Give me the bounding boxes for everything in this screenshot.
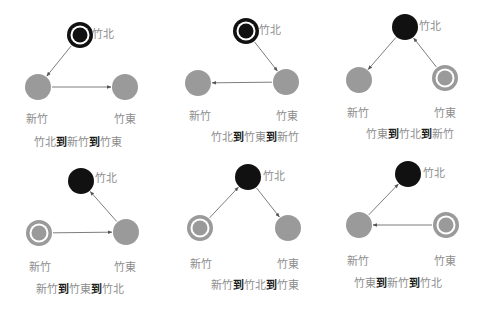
node-label-zhubei: 竹北 — [263, 169, 285, 183]
caption-connector: 到 — [56, 135, 67, 149]
caption-place: 竹東 — [100, 135, 122, 149]
caption-connector: 到 — [421, 127, 432, 141]
node-label-zhubei: 竹北 — [419, 19, 441, 33]
node-zhubei — [392, 14, 418, 40]
caption-place: 竹東 — [244, 130, 266, 144]
current-node-fill — [392, 14, 418, 40]
node-zhudong — [273, 69, 299, 95]
node-zhubei — [67, 22, 93, 48]
current-node-fill — [395, 161, 421, 187]
node-fill — [273, 69, 299, 95]
node-label-zhubei: 竹北 — [92, 27, 114, 41]
start-node-inner — [193, 221, 208, 236]
node-label-zhudong: 竹東 — [114, 112, 136, 126]
node-hsinchu — [25, 74, 51, 100]
edge-zhubei-to-hsinchu — [47, 46, 71, 76]
caption-place: 竹北 — [244, 278, 266, 292]
node-zhubei — [68, 168, 94, 194]
node-hsinchu — [26, 220, 52, 246]
current-node-fill — [235, 164, 261, 190]
node-zhubei — [233, 18, 259, 44]
node-zhudong — [433, 212, 459, 238]
node-label-hsinchu: 新竹 — [26, 112, 48, 126]
node-zhubei — [395, 161, 421, 187]
edge-hsinchu-to-zhudong — [53, 232, 112, 233]
caption-place: 竹東 — [277, 278, 299, 292]
node-label-hsinchu: 新竹 — [29, 260, 51, 274]
caption-connector: 到 — [388, 127, 399, 141]
node-zhudong — [113, 219, 139, 245]
node-fill — [185, 70, 211, 96]
node-label-zhubei: 竹北 — [95, 171, 117, 185]
caption-place: 竹東 — [354, 276, 376, 290]
caption-place: 竹北 — [420, 276, 442, 290]
node-label-hsinchu: 新竹 — [347, 106, 369, 120]
node-zhudong — [275, 215, 301, 241]
node-label-zhudong: 竹東 — [114, 260, 136, 274]
node-fill — [25, 74, 51, 100]
caption-place: 新竹 — [36, 282, 58, 296]
caption-connector: 到 — [233, 130, 244, 144]
node-label-zhudong: 竹東 — [277, 257, 299, 271]
node-label-hsinchu: 新竹 — [189, 109, 211, 123]
caption-place: 竹北 — [399, 127, 421, 141]
route-caption: 竹北到新竹到竹東 — [34, 135, 122, 149]
node-zhudong — [112, 74, 138, 100]
current-node-fill — [73, 28, 88, 43]
caption-connector: 到 — [58, 282, 69, 296]
node-fill — [346, 67, 372, 93]
node-zhubei — [235, 164, 261, 190]
caption-place: 新竹 — [211, 278, 233, 292]
node-fill — [113, 219, 139, 245]
caption-connector: 到 — [91, 282, 102, 296]
edge-zhudong-to-hsinchu — [212, 82, 272, 83]
node-label-zhubei: 竹北 — [423, 166, 445, 180]
caption-connector: 到 — [89, 135, 100, 149]
caption-place: 竹東 — [366, 127, 388, 141]
start-node-inner — [439, 218, 454, 233]
node-label-zhudong: 竹東 — [276, 109, 298, 123]
node-fill — [112, 74, 138, 100]
edge-zhudong-to-zhubei — [90, 191, 116, 221]
node-hsinchu — [187, 215, 213, 241]
route-panel-1: 竹北新竹竹東竹北到新竹到竹東 — [25, 22, 138, 149]
caption-connector: 到 — [233, 278, 244, 292]
node-label-zhudong: 竹東 — [434, 254, 456, 268]
caption-place: 新竹 — [432, 127, 454, 141]
route-caption: 竹北到竹東到新竹 — [211, 130, 299, 144]
route-caption: 竹東到竹北到新竹 — [366, 127, 454, 141]
node-hsinchu — [346, 212, 372, 238]
edge-zhubei-to-zhudong — [257, 188, 280, 217]
caption-place: 竹北 — [34, 135, 56, 149]
edge-zhubei-to-zhudong — [255, 42, 278, 71]
node-label-hsinchu: 新竹 — [190, 257, 212, 271]
start-node-inner — [438, 71, 453, 86]
caption-connector: 到 — [409, 276, 420, 290]
route-panel-5: 竹北新竹竹東新竹到竹北到竹東 — [187, 164, 301, 292]
route-diagrams: 竹北新竹竹東竹北到新竹到竹東竹北新竹竹東竹北到竹東到新竹竹北新竹竹東竹東到竹北到… — [0, 0, 480, 311]
caption-place: 竹北 — [211, 130, 233, 144]
node-label-hsinchu: 新竹 — [347, 254, 369, 268]
edge-hsinchu-to-zhubei — [210, 187, 239, 218]
node-fill — [346, 212, 372, 238]
caption-place: 竹東 — [69, 282, 91, 296]
current-node-fill — [239, 24, 254, 39]
caption-place: 新竹 — [277, 130, 299, 144]
caption-place: 竹北 — [102, 282, 124, 296]
edge-hsinchu-to-zhubei — [369, 184, 399, 215]
caption-connector: 到 — [376, 276, 387, 290]
caption-connector: 到 — [266, 130, 277, 144]
caption-place: 新竹 — [67, 135, 89, 149]
node-fill — [275, 215, 301, 241]
route-caption: 竹東到新竹到竹北 — [354, 276, 442, 290]
caption-place: 新竹 — [387, 276, 409, 290]
route-panel-4: 竹北新竹竹東新竹到竹東到竹北 — [26, 168, 139, 296]
node-label-zhudong: 竹東 — [434, 106, 456, 120]
route-panel-3: 竹北新竹竹東竹東到竹北到新竹 — [346, 14, 458, 141]
edge-zhubei-to-hsinchu — [368, 38, 396, 70]
node-hsinchu — [346, 67, 372, 93]
start-node-inner — [32, 226, 47, 241]
caption-connector: 到 — [266, 278, 277, 292]
route-panel-2: 竹北新竹竹東竹北到竹東到新竹 — [185, 18, 299, 144]
current-node-fill — [68, 168, 94, 194]
